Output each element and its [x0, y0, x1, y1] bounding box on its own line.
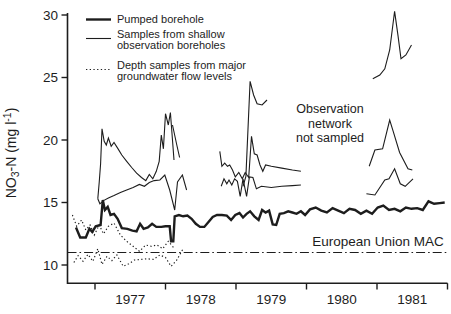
- y-tick-label: 20: [43, 133, 58, 148]
- x-year-label: 1979: [256, 292, 286, 307]
- axis-ticks: 101520253019771978197919801981: [43, 8, 448, 307]
- x-year-label: 1980: [327, 292, 357, 307]
- x-year-label: 1977: [115, 292, 145, 307]
- y-tick-label: 25: [43, 70, 58, 85]
- observation-gap-annotation: Observation network not sampled: [296, 102, 364, 145]
- legend-label-pumped-borehole: Pumped borehole: [117, 13, 204, 25]
- series-segment-thin: [373, 11, 412, 79]
- legend-label-shallow-boreholes-line2: observation boreholes: [117, 39, 226, 51]
- series-segment-thin: [366, 169, 413, 195]
- series-segment-thin: [369, 120, 412, 170]
- y-tick-label: 10: [43, 258, 58, 273]
- legend: Pumped borehole Samples from shallow obs…: [86, 13, 246, 82]
- series-segment-thin: [220, 136, 301, 179]
- annotation-line-3: not sampled: [296, 131, 364, 145]
- x-year-label: 1978: [186, 292, 216, 307]
- x-year-label: 1981: [397, 292, 427, 307]
- series-segment-thin: [98, 175, 187, 210]
- eu-mac-label: European Union MAC: [312, 234, 444, 249]
- y-axis-label: NO3-N (mg l-1): [1, 108, 22, 199]
- y-tick-label: 15: [43, 195, 58, 210]
- y-tick-label: 30: [43, 8, 58, 23]
- no3n-time-series-chart: 101520253019771978197919801981 NO3-N (mg…: [0, 0, 451, 314]
- legend-label-depth-samples-line2: groundwater flow levels: [117, 70, 232, 82]
- series-segment-dotted: [74, 249, 183, 266]
- annotation-line-1: Observation: [296, 102, 363, 116]
- annotation-line-2: network: [308, 117, 353, 131]
- series-segment-thin: [221, 177, 301, 196]
